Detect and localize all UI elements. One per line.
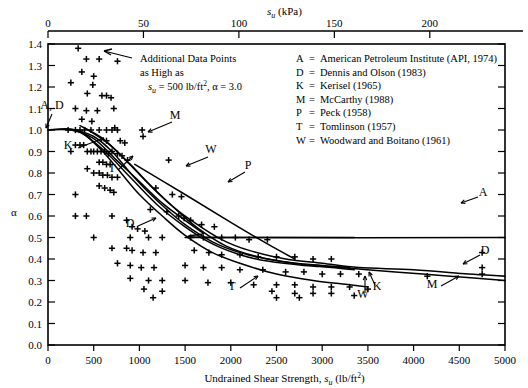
annotation-line-3: su = 500 lb/ft2, α = 3.0 xyxy=(148,79,242,95)
x-tick-label: 0 xyxy=(45,354,51,366)
legend-eq-D: = xyxy=(309,67,315,78)
legend-eq-P: = xyxy=(309,107,315,118)
y-tick-label: 0.0 xyxy=(28,339,42,351)
leader-line-W-upper xyxy=(186,157,208,166)
y-tick-label: 1.3 xyxy=(28,60,42,72)
legend-text-W: Woodward and Boitano (1961) xyxy=(320,135,451,147)
legend-text-D: Dennis and Olson (1983) xyxy=(320,67,426,79)
alpha-chart-figure: 0500100015002000250030003500400045005000… xyxy=(0,0,528,388)
legend-eq-K: = xyxy=(309,80,315,91)
legend-text-P: Peck (1958) xyxy=(320,107,372,119)
legend-text-M: McCarthy (1988) xyxy=(320,94,394,106)
x-tick-label: 3000 xyxy=(311,354,334,366)
curve-label-K-left: K xyxy=(64,138,73,152)
leader-line-M-right xyxy=(441,276,459,286)
curve-label-AD-left: A, D xyxy=(40,98,64,112)
y-axis-title: α xyxy=(11,206,17,218)
y-tick-label: 0.5 xyxy=(28,232,42,244)
legend-key-A: A xyxy=(296,53,304,64)
top-axis-title: su (kPa) xyxy=(267,5,302,20)
y-tick-label: 0.3 xyxy=(28,275,42,287)
legend-eq-T: = xyxy=(309,121,315,132)
curve-label-K-lower: K xyxy=(373,279,382,293)
legend-key-T: T xyxy=(296,121,303,132)
top-tick-label: 100 xyxy=(231,17,248,29)
y-tick-label: 0.8 xyxy=(28,167,42,179)
legend-text-T: Tomlinson (1957) xyxy=(320,121,396,133)
x-tick-label: 3500 xyxy=(357,354,380,366)
curve-label-M-upper: M xyxy=(170,108,181,122)
y-tick-label: 0.4 xyxy=(28,253,42,265)
annotation-line-1: Additional Data Points xyxy=(140,53,236,64)
x-tick-label: 4000 xyxy=(403,354,426,366)
legend-key-W: W xyxy=(296,135,306,146)
top-tick-label: 50 xyxy=(138,17,150,29)
top-tick-label: 150 xyxy=(326,17,343,29)
y-tick-label: 0.1 xyxy=(28,318,42,330)
top-tick-label: 200 xyxy=(422,17,439,29)
legend-eq-A: = xyxy=(309,53,315,64)
x-tick-label: 1500 xyxy=(174,354,197,366)
legend-text-K: Kerisel (1965) xyxy=(320,80,381,92)
x-tick-label: 500 xyxy=(85,354,102,366)
curve-label-A-right: A xyxy=(479,185,488,199)
x-tick-label: 4500 xyxy=(448,354,471,366)
curve-label-D-mid: D xyxy=(126,216,135,230)
legend-key-D: D xyxy=(296,67,304,78)
curve-label-T-left: T xyxy=(108,161,116,175)
legend-text-A: American Petroleum Institute (API, 1974) xyxy=(320,53,498,65)
legend-eq-M: = xyxy=(309,94,315,105)
leader-line-D-right xyxy=(463,255,480,264)
design-curve-A xyxy=(48,129,505,237)
y-tick-label: 0.2 xyxy=(28,296,42,308)
x-tick-label: 1000 xyxy=(128,354,151,366)
y-tick-label: 0.9 xyxy=(28,146,42,158)
curve-label-D-right: D xyxy=(481,243,490,257)
x-tick-label: 5000 xyxy=(494,354,517,366)
x-tick-label: 2000 xyxy=(220,354,243,366)
curve-label-T-lower: T xyxy=(228,279,236,293)
x-axis-title: Undrained Shear Strength, su (lb/ft2) xyxy=(204,371,365,387)
curve-label-P-upper: P xyxy=(245,158,252,172)
legend-key-M: M xyxy=(296,94,306,105)
y-tick-label: 1.4 xyxy=(28,38,42,50)
x-tick-label: 2500 xyxy=(266,354,289,366)
y-tick-label: 1.2 xyxy=(28,81,42,93)
annotation-leader-line xyxy=(104,51,132,58)
annotation-line-2: as High as xyxy=(140,67,184,78)
curve-label-W-upper: W xyxy=(205,142,217,156)
y-tick-label: 0.7 xyxy=(28,189,42,201)
y-tick-label: 1.0 xyxy=(28,124,42,136)
leader-line-D-mid xyxy=(138,218,156,226)
y-tick-label: 0.6 xyxy=(28,210,42,222)
leader-line-T-lower xyxy=(240,276,258,288)
curve-label-W-lower: W xyxy=(357,287,369,301)
top-tick-label: 0 xyxy=(45,17,51,29)
legend-eq-W: = xyxy=(309,135,315,146)
chart-canvas: 0500100015002000250030003500400045005000… xyxy=(0,0,528,388)
legend-key-P: P xyxy=(296,107,302,118)
leader-line-M-upper xyxy=(148,122,172,132)
curve-label-M-right: M xyxy=(427,277,438,291)
legend-key-K: K xyxy=(296,80,304,91)
leader-line-P-upper xyxy=(228,172,245,182)
